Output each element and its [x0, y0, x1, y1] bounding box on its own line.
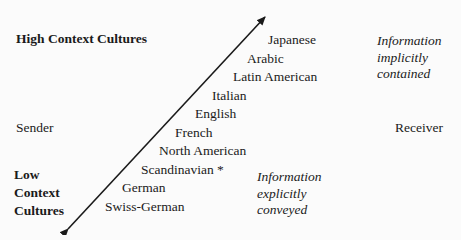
- explicit-note-line1: Information: [257, 170, 322, 184]
- culture-north-american: North American: [159, 144, 246, 158]
- implicit-note-line1: Information: [377, 34, 442, 48]
- low-context-label-line3: Cultures: [14, 204, 64, 218]
- culture-french: French: [175, 126, 213, 140]
- culture-scandinavian: Scandinavian *: [141, 163, 224, 177]
- sender-label: Sender: [16, 121, 54, 135]
- implicit-note-line3: contained: [377, 67, 430, 81]
- high-context-label: High Context Cultures: [16, 32, 147, 46]
- culture-german: German: [122, 181, 165, 195]
- culture-swiss-german: Swiss-German: [105, 200, 185, 214]
- explicit-note-line3: conveyed: [257, 203, 307, 217]
- implicit-note-line2: implicitly: [377, 51, 428, 65]
- culture-latin-american: Latin American: [233, 70, 317, 84]
- low-context-label-line1: Low: [14, 168, 40, 182]
- low-context-label-line2: Context: [14, 186, 60, 200]
- culture-english: English: [195, 107, 236, 121]
- explicit-note-line2: explicitly: [257, 187, 306, 201]
- culture-arabic: Arabic: [247, 52, 284, 66]
- culture-italian: Italian: [212, 89, 246, 103]
- receiver-label: Receiver: [395, 121, 443, 135]
- culture-japanese: Japanese: [268, 33, 316, 47]
